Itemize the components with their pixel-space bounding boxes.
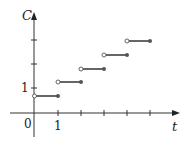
step-function-chart: C t 0 1 1: [0, 0, 196, 144]
y-axis-label: C: [22, 8, 32, 23]
step-segment-3: [79, 67, 106, 71]
closed-point-icon: [148, 39, 152, 43]
x-tick-label-1: 1: [54, 119, 62, 133]
closed-point-icon: [56, 94, 60, 98]
open-point-icon: [56, 80, 60, 84]
step-segment-4: [102, 53, 129, 57]
y-tick-label-1: 1: [21, 81, 29, 95]
step-segment-1: [33, 94, 61, 98]
closed-point-icon: [102, 67, 106, 71]
axes: [10, 12, 180, 137]
open-point-icon: [79, 67, 83, 71]
x-axis-arrow-icon: [172, 110, 180, 116]
open-point-icon: [125, 39, 129, 43]
x-axis-label: t: [172, 119, 178, 134]
open-point-icon: [33, 94, 37, 98]
closed-point-icon: [79, 80, 83, 84]
origin-label: 0: [24, 117, 32, 131]
step-segments: [33, 39, 153, 98]
step-segment-2: [56, 80, 83, 84]
closed-point-icon: [125, 53, 129, 57]
step-segment-5: [125, 39, 152, 43]
open-point-icon: [102, 53, 106, 57]
